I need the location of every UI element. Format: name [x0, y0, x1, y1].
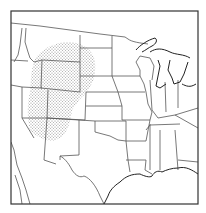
range-shaded-area — [28, 42, 95, 141]
range-map — [0, 0, 206, 213]
great-lakes — [136, 38, 196, 88]
gulf-coastline — [104, 167, 198, 204]
